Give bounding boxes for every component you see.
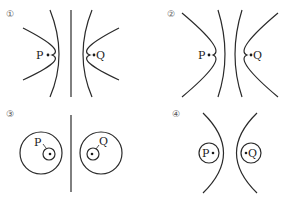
label-p: P [198, 49, 206, 62]
inner-right-curve [235, 10, 242, 97]
label-q: Q [96, 49, 105, 62]
label-p: P [202, 147, 210, 160]
inner-left-curve [218, 10, 225, 97]
leader-p [43, 144, 46, 148]
label-q: Q [99, 135, 108, 148]
panel-2: ② P Q [167, 9, 278, 97]
panel-number-1: ① [6, 9, 14, 19]
panel-number-4: ④ [172, 109, 180, 119]
panel-4: ④ P Q [172, 109, 261, 193]
panel-3: ③ P Q [6, 109, 122, 192]
panel-1: ① P Q [6, 9, 119, 97]
label-p: P [36, 49, 44, 62]
point-q [245, 152, 248, 155]
label-p: P [34, 136, 42, 149]
point-p [212, 152, 215, 155]
label-q: Q [253, 49, 262, 62]
label-q: Q [248, 147, 257, 160]
point-p [47, 54, 50, 57]
point-q [250, 54, 253, 57]
point-p [49, 153, 52, 156]
point-q [93, 54, 96, 57]
point-p [208, 54, 211, 57]
point-q [91, 153, 94, 156]
diagram-figure: ① P Q ② P Q ③ P Q ④ [0, 0, 283, 199]
panel-number-2: ② [167, 9, 175, 19]
panel-number-3: ③ [6, 109, 14, 119]
